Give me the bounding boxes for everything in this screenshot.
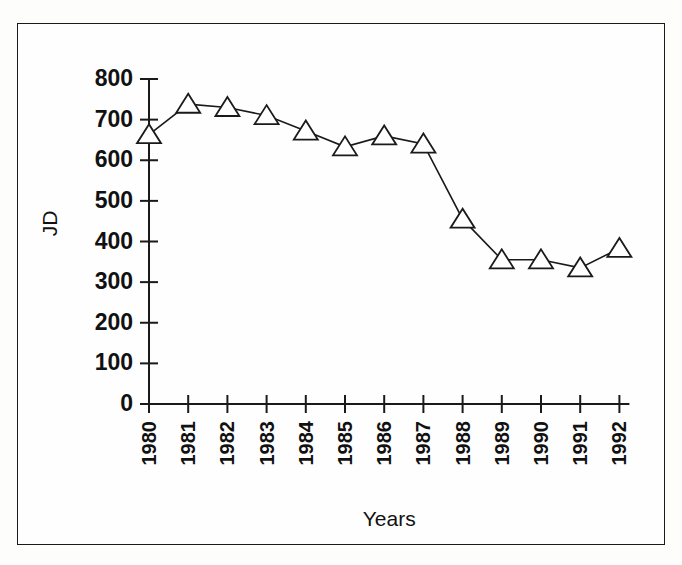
x-axis-tick-label: 1991 [569,421,591,466]
data-point-marker [372,125,396,144]
x-axis-tick-label: 1980 [138,421,160,466]
data-series-markers [137,94,631,277]
data-point-marker [333,136,357,155]
y-axis-title: JD [38,211,61,237]
x-axis-tick-labels: 1980198119821983198419851986198719881989… [138,420,630,465]
x-axis-tick-label: 1984 [295,420,317,465]
screenshot-page: 0100200300400500600700800 19801981198219… [0,0,682,565]
x-axis-tick-label: 1989 [491,421,513,466]
y-axis-tick-labels: 0100200300400500600700800 [95,65,133,416]
y-axis-tick-label: 0 [120,390,133,416]
x-axis-title: Years [363,507,416,530]
y-axis-tick-label: 500 [95,187,133,213]
y-axis-tick-label: 300 [95,268,133,294]
line-chart: 0100200300400500600700800 19801981198219… [18,24,666,546]
x-axis-tick-label: 1986 [373,421,395,466]
x-axis-tick-label: 1988 [452,421,474,466]
data-point-marker [529,249,553,268]
y-axis-tick-label: 600 [95,146,133,172]
x-axis-tick-label: 1987 [412,421,434,466]
figure-frame: 0100200300400500600700800 19801981198219… [17,23,665,545]
y-axis-tick-label: 700 [95,106,133,132]
data-point-marker [451,209,475,228]
y-axis-tick-label: 100 [95,349,133,375]
data-point-marker [607,238,631,257]
y-axis-tick-label: 400 [95,228,133,254]
x-axis-tick-label: 1981 [177,421,199,466]
x-axis-tick-label: 1990 [530,421,552,466]
data-point-marker [294,121,318,140]
x-axis-tick-label: 1982 [216,421,238,466]
data-point-marker [137,124,161,143]
x-axis-tick-label: 1985 [334,421,356,466]
x-axis-tick-label: 1983 [256,421,278,466]
y-axis-tick-label: 200 [95,309,133,335]
x-axis-tick-label: 1992 [608,421,630,466]
data-point-marker [176,94,200,113]
y-axis-tick-label: 800 [95,65,133,91]
